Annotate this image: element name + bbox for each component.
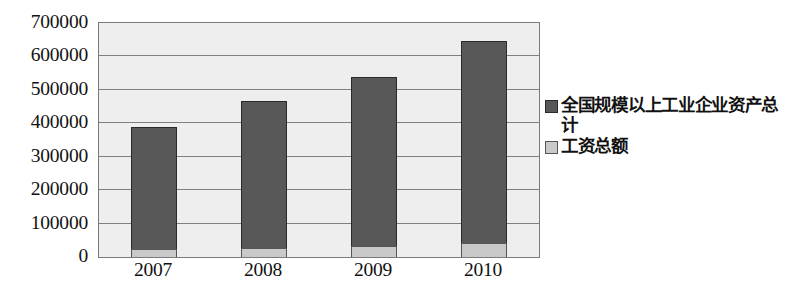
legend-swatch-icon — [545, 100, 558, 113]
bar-segment-wages — [351, 246, 397, 257]
bar-segment-wages — [241, 248, 287, 257]
y-axis-tick-label: 200000 — [31, 179, 88, 199]
x-axis: 2007200820092010 — [98, 258, 538, 288]
bar-group — [131, 127, 177, 257]
plot-area — [98, 22, 540, 258]
y-axis-tick-label: 500000 — [31, 79, 88, 99]
legend: 全国规模以上工业企业资产总计工资总额 — [545, 96, 793, 159]
x-axis-tick-label: 2008 — [244, 260, 282, 280]
x-axis-tick-label: 2010 — [464, 260, 502, 280]
x-axis-tick-label: 2007 — [134, 260, 172, 280]
bar-segment-assets — [131, 127, 177, 249]
legend-item: 全国规模以上工业企业资产总计 — [545, 96, 793, 135]
bar-segment-assets — [461, 41, 507, 243]
y-axis-tick-label: 0 — [78, 246, 88, 266]
y-axis: 7000006000005000004000003000002000001000… — [0, 0, 92, 288]
bar-chart: 7000006000005000004000003000002000001000… — [0, 0, 795, 288]
bar-group — [351, 77, 397, 257]
legend-item-label: 工资总额 — [561, 137, 628, 157]
legend-item: 工资总额 — [545, 137, 793, 157]
y-axis-tick-label: 400000 — [31, 113, 88, 133]
y-axis-tick-label: 700000 — [31, 12, 88, 32]
bar-segment-wages — [461, 243, 507, 257]
y-axis-tick-label: 600000 — [31, 46, 88, 66]
bars-layer — [99, 23, 539, 257]
bar-segment-wages — [131, 249, 177, 257]
legend-item-label: 全国规模以上工业企业资产总计 — [561, 96, 793, 135]
bar-segment-assets — [241, 101, 287, 248]
y-axis-tick-label: 100000 — [31, 213, 88, 233]
bar-group — [241, 101, 287, 257]
bar-segment-assets — [351, 77, 397, 246]
y-axis-tick-label: 300000 — [31, 146, 88, 166]
bar-group — [461, 41, 507, 257]
legend-swatch-icon — [545, 141, 558, 154]
x-axis-tick-label: 2009 — [354, 260, 392, 280]
